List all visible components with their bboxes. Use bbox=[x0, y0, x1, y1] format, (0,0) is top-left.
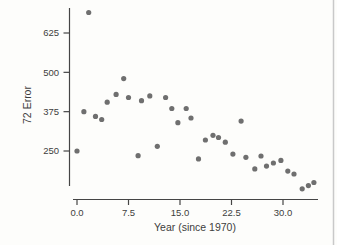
data-point bbox=[184, 106, 189, 111]
data-points bbox=[74, 10, 316, 192]
data-point bbox=[86, 10, 91, 15]
data-point bbox=[239, 119, 244, 124]
data-point bbox=[163, 95, 168, 100]
data-point bbox=[93, 114, 98, 119]
y-tick-label: 250 bbox=[43, 145, 59, 156]
data-point bbox=[81, 109, 86, 114]
scatter-plot-figure: 250375500625 0.07.515.022.530.0 Year (si… bbox=[0, 0, 337, 245]
data-point bbox=[169, 106, 174, 111]
data-point bbox=[203, 137, 208, 142]
scatter-plot: 250375500625 0.07.515.022.530.0 Year (si… bbox=[0, 0, 337, 245]
y-tick-label: 375 bbox=[43, 106, 59, 117]
x-axis-label: Year (since 1970) bbox=[154, 221, 236, 233]
data-point bbox=[188, 115, 193, 120]
data-point bbox=[74, 148, 79, 153]
data-point bbox=[210, 133, 215, 138]
data-point bbox=[155, 144, 160, 149]
x-axis: 0.07.515.022.530.0 bbox=[70, 200, 318, 218]
data-point bbox=[291, 171, 296, 176]
data-point bbox=[136, 153, 141, 158]
y-tick-label: 625 bbox=[43, 27, 59, 38]
data-point bbox=[278, 158, 283, 163]
y-axis-label: 72 Error bbox=[21, 86, 33, 124]
data-point bbox=[311, 180, 316, 185]
data-point bbox=[258, 153, 263, 158]
x-tick-label: 22.5 bbox=[222, 207, 241, 218]
y-tick-label: 500 bbox=[43, 67, 59, 78]
x-tick-label: 30.0 bbox=[274, 207, 293, 218]
data-point bbox=[121, 76, 126, 81]
data-point bbox=[147, 93, 152, 98]
data-point bbox=[230, 152, 235, 157]
x-tick-label: 0.0 bbox=[70, 207, 83, 218]
data-point bbox=[114, 92, 119, 97]
data-point bbox=[300, 186, 305, 191]
data-point bbox=[216, 135, 221, 140]
data-point bbox=[306, 183, 311, 188]
x-tick-label: 15.0 bbox=[171, 207, 190, 218]
data-point bbox=[126, 95, 131, 100]
data-point bbox=[223, 140, 228, 145]
data-point bbox=[175, 120, 180, 125]
x-tick-label: 7.5 bbox=[122, 207, 135, 218]
data-point bbox=[252, 166, 257, 171]
data-point bbox=[196, 156, 201, 161]
data-point bbox=[264, 164, 269, 169]
data-point bbox=[99, 117, 104, 122]
data-point bbox=[285, 169, 290, 174]
data-point bbox=[271, 160, 276, 165]
y-axis: 250375500625 bbox=[43, 8, 69, 186]
data-point bbox=[243, 155, 248, 160]
data-point bbox=[139, 98, 144, 103]
data-point bbox=[105, 100, 110, 105]
